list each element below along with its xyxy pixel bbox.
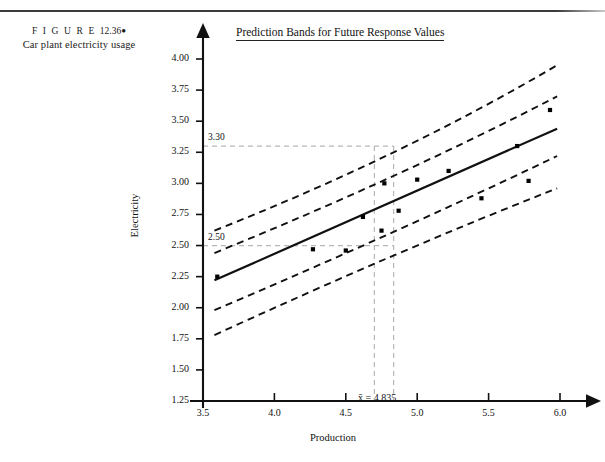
y-tick-label: 1.50 (155, 363, 189, 374)
upper-inner-prediction-band (214, 96, 557, 253)
x-tick-label: 4.0 (257, 407, 291, 418)
x-tick-label: 5.5 (472, 407, 506, 418)
y-tick-label: 3.00 (155, 176, 189, 187)
data-point (311, 247, 315, 251)
data-points (215, 108, 552, 279)
data-point (526, 179, 530, 183)
data-point (397, 209, 401, 213)
reference-value-label: 2.50 (208, 232, 225, 242)
x-tick-label: 5.0 (400, 407, 434, 418)
x-tick-label: 4.5 (329, 407, 363, 418)
y-tick-label: 2.00 (155, 301, 189, 312)
y-tick-label: 3.75 (155, 83, 189, 94)
x-tick-label: 6.0 (543, 407, 577, 418)
data-point (515, 144, 519, 148)
y-tick-label: 2.75 (155, 207, 189, 218)
data-point (382, 181, 386, 185)
data-point (548, 108, 552, 112)
reference-value-label: 3.30 (208, 132, 225, 142)
prediction-bands (214, 65, 557, 335)
y-tick-label: 3.50 (155, 114, 189, 125)
data-point (447, 169, 451, 173)
y-tick-label: 2.25 (155, 270, 189, 281)
regression-line (214, 129, 557, 281)
upper-outer-prediction-band (214, 65, 557, 230)
y-tick-label: 4.00 (155, 52, 189, 63)
x-axis-ticks (203, 393, 560, 401)
chart-plot-area (0, 0, 605, 462)
data-point (344, 248, 348, 252)
data-point (379, 229, 383, 233)
y-tick-label: 2.50 (155, 239, 189, 250)
regression-line-segment (214, 129, 557, 281)
data-point (215, 275, 219, 279)
data-point (479, 196, 483, 200)
y-tick-label: 1.25 (155, 394, 189, 405)
y-tick-label: 1.75 (155, 332, 189, 343)
y-tick-label: 3.25 (155, 145, 189, 156)
data-point (415, 178, 419, 182)
data-point (361, 215, 365, 219)
x-tick-label: 3.5 (186, 407, 220, 418)
